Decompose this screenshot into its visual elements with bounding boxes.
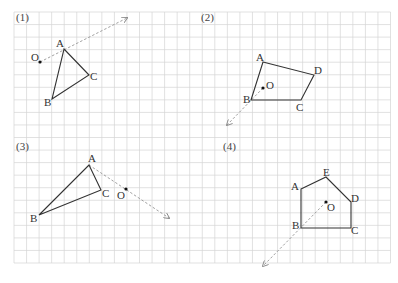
vertex-label-a: A [56, 37, 64, 49]
figure-polygon [52, 49, 89, 99]
center-point [261, 86, 264, 89]
grid-paper [14, 12, 391, 263]
panels: (1)ACBO(2)ADCBO(3)ACBO(4)AEDCBO [16, 11, 359, 266]
geometry-worksheet: (1)ACBO(2)ADCBO(3)ACBO(4)AEDCBO [0, 0, 398, 283]
panel-label: (1) [16, 11, 29, 24]
panel-4: (4)AEDCBO [223, 140, 359, 266]
panel-2: (2)ADCBO [201, 11, 322, 125]
panel-label: (4) [223, 140, 236, 153]
vertex-label-c: C [296, 101, 303, 113]
vertex-label-a: A [291, 180, 299, 192]
center-label: O [117, 189, 125, 201]
panel-label: (3) [16, 140, 29, 153]
vertex-label-e: E [323, 166, 330, 178]
vertex-label-b: B [44, 96, 51, 108]
center-label: O [266, 79, 274, 91]
panel-1: (1)ACBO [16, 11, 127, 108]
dashed-arrow [263, 202, 326, 266]
figure-polygon [251, 62, 314, 100]
vertex-label-c: C [102, 187, 109, 199]
vertex-label-c: C [351, 224, 358, 236]
dashed-arrow [89, 165, 169, 218]
vertex-label-a: A [88, 152, 96, 164]
vertex-label-b: B [30, 212, 37, 224]
vertex-label-c: C [90, 70, 97, 82]
center-label: O [327, 201, 335, 213]
figure-polygon [39, 165, 101, 215]
center-label: O [31, 51, 39, 63]
panel-label: (2) [201, 11, 214, 24]
vertex-label-a: A [256, 51, 264, 63]
vertex-label-b: B [292, 219, 299, 231]
vertex-label-d: D [351, 192, 359, 204]
vertex-label-b: B [243, 93, 250, 105]
vertex-label-d: D [314, 64, 322, 76]
